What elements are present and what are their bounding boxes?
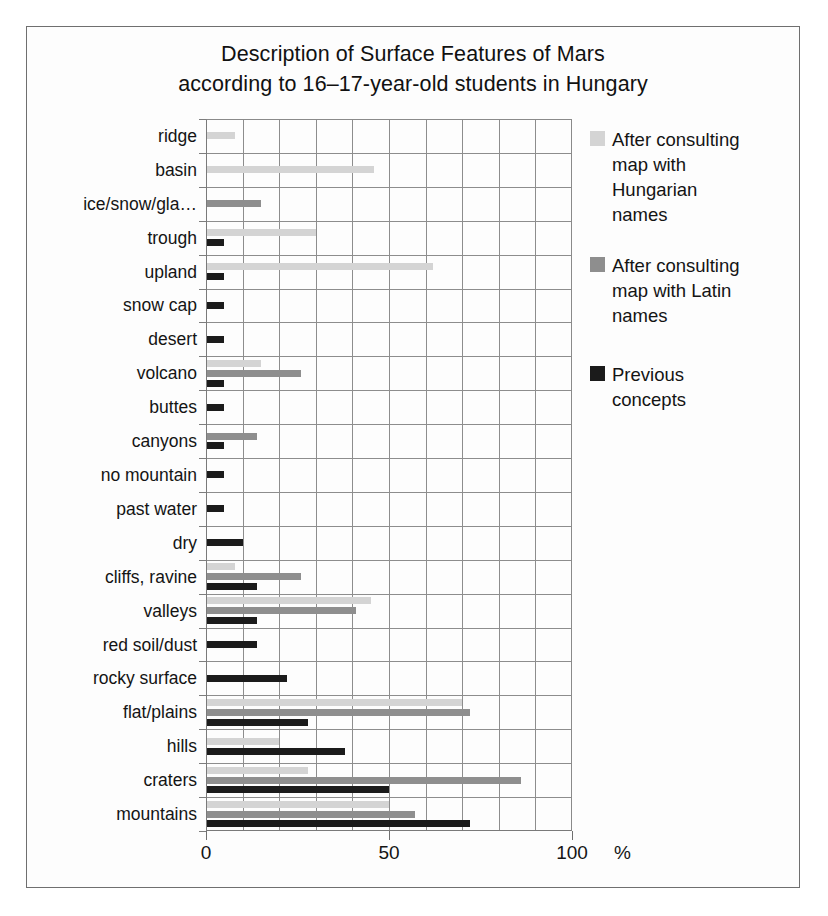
bar-series-2[interactable]	[206, 239, 224, 246]
bar-series-2[interactable]	[206, 748, 345, 755]
bar-group	[206, 695, 572, 729]
chart-title: Description of Surface Features of Mars …	[27, 39, 799, 99]
bar-series-2[interactable]	[206, 471, 224, 478]
y-axis-label: volcano	[38, 363, 206, 383]
y-axis-label: craters	[38, 770, 206, 790]
y-axis-tick	[199, 695, 206, 696]
bar-series-1[interactable]	[206, 777, 521, 784]
bar-group	[206, 187, 572, 221]
bar-series-2[interactable]	[206, 786, 389, 793]
bar-series-0[interactable]	[206, 132, 235, 139]
bar-series-1[interactable]	[206, 607, 356, 614]
x-axis-tick	[206, 831, 207, 840]
y-axis-label: upland	[38, 262, 206, 282]
bar-series-1[interactable]	[206, 200, 261, 207]
y-axis-label: trough	[38, 228, 206, 248]
bar-group	[206, 729, 572, 763]
bar-series-2[interactable]	[206, 404, 224, 411]
y-axis-tick	[199, 289, 206, 290]
bar-group	[206, 390, 572, 424]
chart-legend: After consulting map with Hungarian name…	[590, 127, 796, 438]
bar-series-1[interactable]	[206, 433, 257, 440]
bar-series-2[interactable]	[206, 719, 308, 726]
y-axis-tick	[199, 628, 206, 629]
bar-group	[206, 289, 572, 323]
y-axis-tick	[199, 255, 206, 256]
bar-series-2[interactable]	[206, 641, 257, 648]
bar-series-1[interactable]	[206, 573, 301, 580]
bar-series-0[interactable]	[206, 360, 261, 367]
legend-entry-latin-names[interactable]: After consulting map with Latin names	[590, 253, 796, 328]
bar-series-2[interactable]	[206, 273, 224, 280]
y-axis-label: flat/plains	[38, 702, 206, 722]
bar-series-2[interactable]	[206, 675, 287, 682]
legend-label-series-0-line-2: map with	[612, 154, 686, 175]
bar-group	[206, 424, 572, 458]
bar-series-2[interactable]	[206, 820, 470, 827]
y-axis-label: rocky surface	[38, 668, 206, 688]
bar-group	[206, 356, 572, 390]
y-axis-label: buttes	[38, 397, 206, 417]
bar-group	[206, 119, 572, 153]
bar-group	[206, 322, 572, 356]
y-axis-label: no mountain	[38, 465, 206, 485]
bar-group	[206, 661, 572, 695]
bar-group	[206, 255, 572, 289]
bar-series-0[interactable]	[206, 699, 462, 706]
legend-label-series-1: After consulting map with Latin names	[612, 253, 740, 328]
y-axis-label: canyons	[38, 431, 206, 451]
x-axis-tick-label: 100	[556, 842, 588, 864]
bar-group	[206, 763, 572, 797]
bar-series-0[interactable]	[206, 738, 279, 745]
x-axis-tick-label: 50	[378, 842, 399, 864]
bar-series-0[interactable]	[206, 597, 371, 604]
legend-label-series-2-line-2: concepts	[612, 389, 686, 410]
bar-series-0[interactable]	[206, 767, 308, 774]
y-axis-tick	[199, 424, 206, 425]
legend-label-series-0-line-1: After consulting	[612, 129, 740, 150]
bar-series-1[interactable]	[206, 709, 470, 716]
bar-series-2[interactable]	[206, 583, 257, 590]
legend-label-series-1-line-3: names	[612, 305, 668, 326]
y-axis-tick	[199, 763, 206, 764]
legend-label-series-1-line-1: After consulting	[612, 255, 740, 276]
y-axis-label: dry	[38, 533, 206, 553]
y-axis-label: basin	[38, 160, 206, 180]
bar-group	[206, 492, 572, 526]
bar-series-2[interactable]	[206, 617, 257, 624]
y-axis-tick	[199, 221, 206, 222]
bar-series-2[interactable]	[206, 442, 224, 449]
legend-label-series-0-line-3: Hungarian	[612, 179, 697, 200]
legend-swatch-icon-series-0	[590, 131, 605, 146]
x-axis-tick	[389, 831, 390, 840]
bar-group	[206, 628, 572, 662]
y-axis-label: ridge	[38, 126, 206, 146]
bar-series-2[interactable]	[206, 302, 224, 309]
bar-series-2[interactable]	[206, 336, 224, 343]
bar-series-0[interactable]	[206, 166, 374, 173]
bar-series-2[interactable]	[206, 505, 224, 512]
bar-series-2[interactable]	[206, 539, 243, 546]
y-axis-label: snow cap	[38, 295, 206, 315]
bar-series-0[interactable]	[206, 801, 389, 808]
y-axis-tick	[199, 322, 206, 323]
y-axis-label: cliffs, ravine	[38, 567, 206, 587]
chart-title-line-2: according to 16–17-year-old students in …	[27, 69, 799, 99]
bar-series-0[interactable]	[206, 563, 235, 570]
bar-group	[206, 221, 572, 255]
bar-series-0[interactable]	[206, 229, 316, 236]
legend-entry-hungarian-names[interactable]: After consulting map with Hungarian name…	[590, 127, 796, 227]
bar-group	[206, 797, 572, 831]
legend-label-series-2: Previous concepts	[612, 362, 686, 412]
y-axis-tick	[199, 458, 206, 459]
bar-series-1[interactable]	[206, 370, 301, 377]
bar-series-1[interactable]	[206, 811, 415, 818]
bar-group	[206, 594, 572, 628]
chart-title-line-1: Description of Surface Features of Mars	[27, 39, 799, 69]
bar-series-0[interactable]	[206, 263, 433, 270]
y-axis-tick	[199, 119, 206, 120]
legend-entry-previous-concepts[interactable]: Previous concepts	[590, 362, 796, 412]
x-axis-tick	[572, 831, 573, 840]
bar-series-2[interactable]	[206, 380, 224, 387]
y-axis-tick	[199, 356, 206, 357]
